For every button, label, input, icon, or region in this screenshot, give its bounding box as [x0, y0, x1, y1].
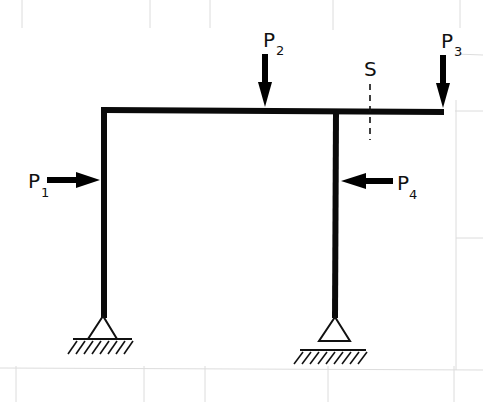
p3-subscript: 3	[454, 44, 462, 59]
arrow-left-icon	[341, 173, 366, 189]
roller-triangle	[319, 317, 350, 341]
load-p1: P 1	[28, 169, 100, 200]
arrow-down-icon	[258, 82, 272, 107]
left-support	[68, 316, 133, 354]
ground-hatch	[68, 341, 133, 354]
p2-subscript: 2	[276, 43, 284, 58]
ground-hatch	[294, 352, 367, 364]
right-column	[335, 112, 336, 318]
load-p2: P 2	[258, 28, 284, 107]
p1-label: P	[28, 169, 40, 193]
section-label: S	[364, 57, 377, 81]
beam	[104, 110, 444, 112]
pin-triangle	[88, 316, 117, 339]
p3-label: P	[441, 29, 453, 53]
load-p4: P 4	[341, 171, 417, 202]
section-s: S	[364, 57, 377, 140]
load-p3: P 3	[436, 29, 462, 108]
p1-subscript: 1	[41, 185, 49, 200]
arrow-down-icon	[436, 83, 450, 108]
p4-subscript: 4	[409, 187, 417, 202]
arrow-right-icon	[76, 172, 100, 188]
grid-line	[0, 368, 483, 370]
frame-diagram: P 1 P 2 P 3 P 4 S	[0, 0, 483, 402]
p2-label: P	[263, 28, 275, 52]
frame	[104, 107, 444, 318]
p4-label: P	[397, 171, 409, 195]
right-support	[294, 317, 367, 364]
